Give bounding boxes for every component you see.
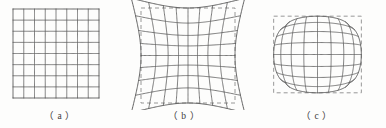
caption-a: （ a ） bbox=[0, 108, 120, 122]
panel-b-graphic bbox=[120, 0, 248, 110]
distortion-figure: （ a ） （ b ） （ c ） bbox=[0, 0, 386, 128]
caption-b: （ b ） bbox=[120, 108, 248, 122]
panel-undistorted: （ a ） bbox=[0, 0, 120, 128]
caption-c: （ c ） bbox=[248, 108, 386, 122]
panel-barrel: （ b ） bbox=[120, 0, 248, 128]
panel-a-graphic bbox=[0, 0, 120, 110]
panel-pincushion: （ c ） bbox=[248, 0, 386, 128]
panel-c-graphic bbox=[248, 0, 386, 110]
